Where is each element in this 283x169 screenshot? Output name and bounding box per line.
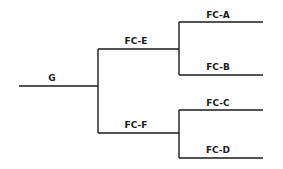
node-label-fc-e: FC-E bbox=[125, 36, 148, 46]
node-label-fc-d: FC-D bbox=[206, 145, 230, 155]
node-label-fc-a: FC-A bbox=[206, 10, 230, 20]
node-label-fc-b: FC-B bbox=[206, 62, 230, 72]
bracket-diagram: G FC-E FC-F FC-A FC-B FC-C FC-D bbox=[0, 0, 283, 169]
node-label-g: G bbox=[48, 73, 55, 83]
node-label-fc-c: FC-C bbox=[206, 98, 230, 108]
diagram-svg: G FC-E FC-F FC-A FC-B FC-C FC-D bbox=[0, 0, 283, 169]
node-label-fc-f: FC-F bbox=[125, 120, 148, 130]
